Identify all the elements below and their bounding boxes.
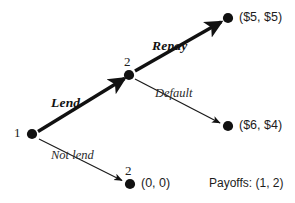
node-terminal-default[interactable]: [223, 121, 233, 131]
node-label-player-2-mid: 2: [124, 55, 131, 68]
node-mid-player2[interactable]: [124, 70, 134, 80]
payoff-not-lend: (0, 0): [141, 177, 170, 190]
edge-label-repay: Repay: [152, 39, 188, 53]
payoff-repay: ($5, $5): [239, 11, 282, 24]
node-terminal-repay[interactable]: [223, 13, 233, 23]
game-tree-diagram: 1 2 2 Lend Not lend Repay Default ($5, $…: [0, 0, 295, 203]
node-root-player1[interactable]: [27, 129, 37, 139]
node-label-player-1: 1: [14, 126, 21, 139]
edge-label-default: Default: [155, 87, 193, 100]
payoff-default: ($6, $4): [239, 119, 282, 132]
node-terminal-not-lend[interactable]: [125, 179, 135, 189]
payoffs-legend: Payoffs: (1, 2): [209, 177, 283, 189]
tree-edges-layer: [0, 0, 295, 203]
edge-label-not-lend: Not lend: [51, 149, 94, 162]
node-label-player-2-notlend: 2: [125, 164, 132, 177]
edge-label-lend: Lend: [51, 96, 80, 110]
